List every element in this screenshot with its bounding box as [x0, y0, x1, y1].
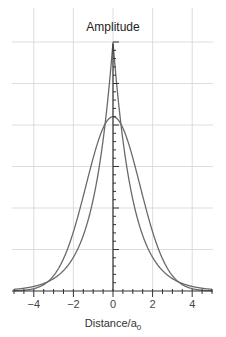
x-tick-labels: −4−2024: [28, 298, 196, 310]
x-axis-label-main: Distance/a: [85, 317, 137, 329]
x-tick-label: −2: [67, 298, 80, 310]
axes: [12, 42, 213, 297]
x-axis-label-subscript: 0: [137, 323, 141, 332]
x-axis-label: Distance/a0: [0, 317, 226, 332]
chart-canvas: −4−2024: [0, 0, 226, 337]
x-tick-label: −4: [28, 298, 41, 310]
chart-title: Amplitude: [0, 20, 226, 34]
x-tick-label: 4: [189, 298, 195, 310]
x-tick-label: 0: [110, 298, 116, 310]
x-tick-label: 2: [150, 298, 156, 310]
